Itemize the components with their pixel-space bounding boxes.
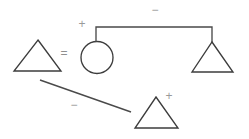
minus-symbol-bracket: −: [151, 3, 158, 17]
plus-symbol-circle: +: [78, 17, 85, 31]
node-triangle-right[interactable]: [192, 42, 233, 72]
diagram-canvas: = + − − +: [0, 0, 249, 139]
edge-diagonal-connector: [40, 80, 131, 112]
node-circle-center[interactable]: [81, 42, 113, 74]
plus-symbol-bottom: +: [165, 89, 172, 103]
circle-center-outline: [81, 42, 113, 74]
shape-relation-diagram: = + − − +: [0, 0, 249, 139]
edge-bracket-connector: [96, 27, 212, 42]
node-triangle-left[interactable]: [14, 40, 61, 71]
equals-symbol: =: [60, 46, 67, 60]
minus-symbol-diagonal: −: [70, 98, 77, 112]
triangle-right-outline: [192, 42, 233, 72]
triangle-left-outline: [14, 40, 61, 71]
